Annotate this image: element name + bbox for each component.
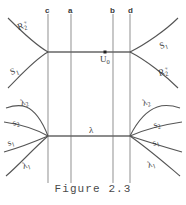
label-sup: + [164,64,170,72]
node-label-u0-sub: 0 [107,58,110,65]
curve-upper-right-s1 [130,18,178,52]
vertical-line-label-d: d [128,7,133,15]
figure-caption: Figure 2.3 [0,183,186,195]
label-sup: + [23,18,29,26]
vertical-line-label-b: b [110,7,115,15]
curve-lower-left-s2 [4,122,48,136]
vertical-line-label-a: a [68,7,72,15]
curve-label-center-lambda: λ [89,126,93,135]
vertical-line-label-c: c [45,7,49,15]
node-label-u0-base: U [100,54,107,64]
node-label-u0: U0 [100,55,110,64]
figure-container: c a b d U0 R2+ S1 S1 R2+ λ2 s2 s1 λ1 λ2 … [0,0,186,205]
